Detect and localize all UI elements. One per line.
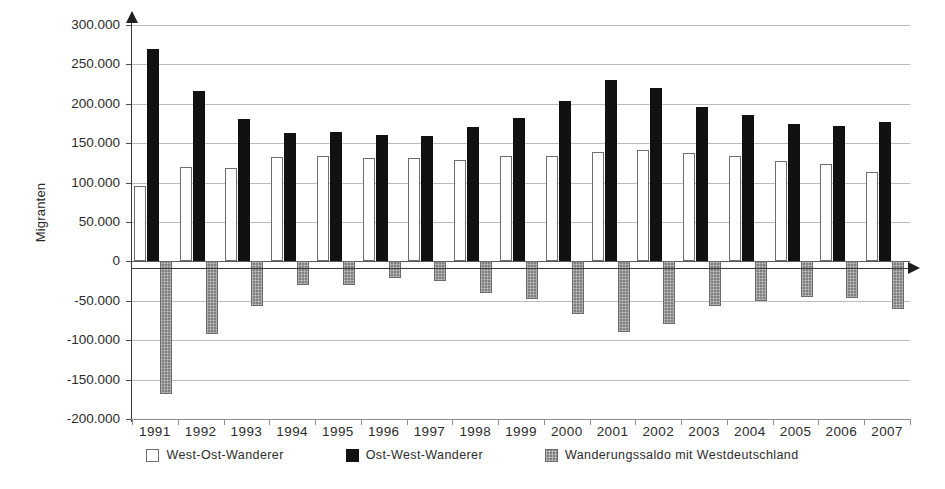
y-tick-label: -100.000	[28, 333, 120, 347]
bar-saldo-1998	[480, 261, 492, 293]
y-tick-label: -50.000	[28, 294, 120, 308]
bar-saldo-1992	[206, 261, 218, 333]
bar-west-ost-1991	[134, 186, 146, 262]
x-tick-mark	[910, 419, 911, 425]
bar-west-ost-2006	[820, 164, 832, 262]
y-tick-label: 150.000	[28, 136, 120, 150]
x-axis-baseline	[131, 419, 910, 420]
bar-group-2001	[592, 25, 630, 419]
bar-ost-west-1995	[330, 132, 342, 261]
bar-saldo-2001	[618, 261, 630, 331]
bar-group-1998	[454, 25, 492, 419]
bar-west-ost-1993	[225, 168, 237, 262]
y-tick-label: -150.000	[28, 373, 120, 387]
bar-west-ost-1998	[454, 160, 466, 262]
bar-ost-west-1993	[238, 119, 250, 262]
bar-group-1992	[180, 25, 218, 419]
bar-saldo-1994	[297, 261, 309, 285]
y-tick-label: 0	[28, 255, 120, 269]
bar-ost-west-1991	[147, 49, 159, 262]
bar-west-ost-1996	[363, 158, 375, 261]
bar-west-ost-2000	[546, 156, 558, 262]
legend-item-ost-west[interactable]: Ost-West-Wanderer	[346, 448, 483, 462]
bar-west-ost-2002	[637, 150, 649, 261]
bar-ost-west-1996	[376, 135, 388, 261]
bar-west-ost-2001	[592, 152, 604, 262]
bar-saldo-2002	[663, 261, 675, 323]
bar-west-ost-1994	[271, 157, 283, 262]
bar-ost-west-1998	[467, 127, 479, 262]
y-tick-label: 100.000	[28, 176, 120, 190]
y-axis-line	[131, 18, 132, 422]
x-axis-label-2007: 2007	[857, 424, 917, 439]
bar-group-2000	[546, 25, 584, 419]
y-tick-label: 300.000	[28, 18, 120, 32]
x-axis-arrow-icon	[908, 262, 920, 274]
bar-saldo-2000	[572, 261, 584, 314]
bar-group-1996	[363, 25, 401, 419]
bar-ost-west-1994	[284, 133, 296, 261]
bar-west-ost-2005	[775, 161, 787, 261]
bar-saldo-2006	[846, 261, 858, 298]
bar-group-1997	[408, 25, 446, 419]
y-tick-label: -200.000	[28, 412, 120, 426]
bar-west-ost-1997	[408, 158, 420, 261]
bar-ost-west-1999	[513, 118, 525, 261]
legend-item-saldo[interactable]: Wanderungssaldo mit Westdeutschland	[545, 448, 799, 462]
y-tick-label: 50.000	[28, 215, 120, 229]
legend-label: Ost-West-Wanderer	[366, 448, 483, 462]
bar-west-ost-2004	[729, 156, 741, 262]
bar-ost-west-2006	[833, 126, 845, 262]
bar-saldo-1997	[434, 261, 446, 281]
bar-saldo-1995	[343, 261, 355, 285]
legend-swatch-west-ost-icon	[146, 449, 159, 462]
bar-group-2002	[637, 25, 675, 419]
bar-group-1999	[500, 25, 538, 419]
y-tick-label: 200.000	[28, 97, 120, 111]
legend-label: Wanderungssaldo mit Westdeutschland	[565, 448, 799, 462]
bar-group-2004	[729, 25, 767, 419]
bar-west-ost-1999	[500, 156, 512, 262]
bar-west-ost-2007	[866, 172, 878, 262]
x-axis-zero-line	[131, 268, 911, 269]
bar-ost-west-2004	[742, 115, 754, 262]
bar-ost-west-2002	[650, 88, 662, 261]
bar-saldo-1996	[389, 261, 401, 278]
chart-legend: West-Ost-WandererOst-West-WandererWander…	[0, 448, 945, 462]
bar-ost-west-1997	[421, 136, 433, 261]
bar-group-1994	[271, 25, 309, 419]
bar-west-ost-1995	[317, 156, 329, 262]
bar-ost-west-2007	[879, 122, 891, 261]
bar-group-2006	[820, 25, 858, 419]
legend-item-west-ost[interactable]: West-Ost-Wanderer	[146, 448, 283, 462]
bar-group-2005	[775, 25, 813, 419]
bar-ost-west-2005	[788, 124, 800, 261]
legend-label: West-Ost-Wanderer	[166, 448, 283, 462]
bar-group-1993	[225, 25, 263, 419]
legend-swatch-saldo-icon	[545, 449, 558, 462]
bar-ost-west-2003	[696, 107, 708, 261]
bar-ost-west-2000	[559, 101, 571, 262]
bar-group-2003	[683, 25, 721, 419]
bar-group-2007	[866, 25, 904, 419]
bar-west-ost-2003	[683, 153, 695, 262]
legend-swatch-ost-west-icon	[346, 449, 359, 462]
bar-group-1995	[317, 25, 355, 419]
y-axis-arrow-icon	[126, 11, 138, 23]
y-tick-label: 250.000	[28, 58, 120, 72]
bar-saldo-2005	[801, 261, 813, 296]
bar-west-ost-1992	[180, 167, 192, 262]
bar-group-1991	[134, 25, 172, 419]
bar-ost-west-2001	[605, 80, 617, 261]
plot-area	[132, 25, 910, 419]
migration-bar-chart: Migranten 300.000250.000200.000150.00010…	[0, 0, 945, 489]
bar-saldo-1991	[160, 261, 172, 393]
bar-ost-west-1992	[193, 91, 205, 261]
